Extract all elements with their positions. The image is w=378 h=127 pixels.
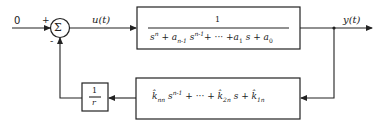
plus-sign: + xyxy=(42,16,50,25)
input-label: 0 xyxy=(14,16,20,26)
gain-denominator: r xyxy=(92,99,96,107)
feedback-path-left xyxy=(60,38,82,98)
plant-numerator: 1 xyxy=(215,16,220,24)
feedback-path-right xyxy=(301,28,334,98)
block-diagram xyxy=(0,0,378,127)
control-signal-label: u(t) xyxy=(92,15,110,25)
minus-sign: - xyxy=(50,36,53,46)
sigma-symbol: Σ xyxy=(54,22,62,33)
plant-denominator: sn + an-1 sn-1+ ··· +a1 s + a0 xyxy=(150,33,273,42)
gain-numerator: 1 xyxy=(92,87,97,95)
feedback-filter-expression: k̂nn sn-1 + ··· + k̂2n s + k̂1n xyxy=(152,92,265,101)
output-label: y(t) xyxy=(343,15,360,25)
